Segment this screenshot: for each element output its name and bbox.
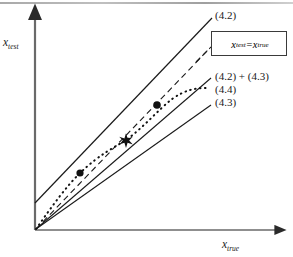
series-curve-4-4	[36, 88, 206, 229]
series-label-4-4: (4.4)	[215, 84, 236, 96]
series-label-4-2: (4.2)	[215, 10, 236, 22]
series-line-4-2	[35, 18, 212, 203]
x-axis-label-sub: true	[227, 244, 239, 253]
legend-box-text: xtest = xtrue	[212, 32, 288, 57]
y-axis-label-sub: test	[8, 42, 18, 51]
series-label-4-2-plus-4-3: (4.2) + (4.3)	[215, 71, 269, 83]
y-axis-label: xtest	[3, 36, 19, 51]
legend-lhs-sub: test	[236, 41, 246, 49]
marker-circle-2	[153, 101, 161, 109]
marker-circle-1	[76, 169, 83, 176]
x-axis-label: xtrue	[222, 238, 239, 253]
legend-pointer-line	[196, 47, 211, 62]
series-line-4-3	[36, 105, 211, 229]
legend-box: xtest = xtrue	[211, 31, 287, 56]
figure-canvas: xtest xtrue (4.2) (4.2) + (4.3) (4.4) (4…	[0, 0, 293, 257]
legend-rhs-sub: true	[257, 41, 268, 49]
series-line-4-2-plus-4-3	[36, 78, 211, 229]
legend-equals: =	[246, 39, 253, 50]
series-label-4-3: (4.3)	[215, 97, 236, 109]
